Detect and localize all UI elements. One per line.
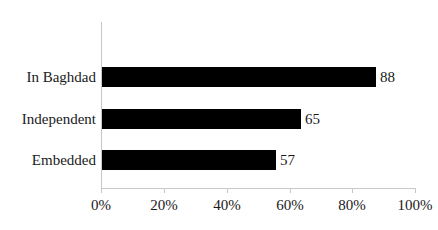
- y-axis-category-text: Independent: [0, 110, 96, 128]
- x-axis-tick-label: 100%: [385, 196, 438, 214]
- x-axis-tick-label: 80%: [322, 196, 382, 214]
- x-axis-tick-label: 60%: [260, 196, 320, 214]
- bar: [102, 150, 276, 170]
- bar: [102, 67, 376, 87]
- x-axis-tick: [290, 188, 291, 193]
- bar-value-label: 57: [280, 151, 295, 169]
- y-axis-category-label: In Baghdad: [0, 68, 96, 86]
- x-axis-tick-label: 0%: [71, 196, 131, 214]
- x-axis-tick: [415, 188, 416, 193]
- y-axis-category-text: Embedded: [0, 151, 96, 169]
- x-axis-line: [101, 188, 416, 189]
- plot-area: 0% 20% 40% 60% 80% 100% In Baghdad Indep…: [0, 0, 438, 230]
- bar-value-label: 88: [380, 68, 395, 86]
- x-axis-tick: [164, 188, 165, 193]
- x-axis-tick: [227, 188, 228, 193]
- bar-value-label: 65: [305, 110, 320, 128]
- bar: [102, 109, 301, 129]
- y-axis-category-text: In Baghdad: [0, 68, 96, 86]
- y-axis-category-label: Independent: [0, 110, 96, 128]
- bar-chart: 0% 20% 40% 60% 80% 100% In Baghdad Indep…: [0, 0, 438, 230]
- x-axis-tick: [101, 188, 102, 193]
- x-axis-tick-label: 40%: [197, 196, 257, 214]
- x-axis-tick: [352, 188, 353, 193]
- y-axis-category-label: Embedded: [0, 151, 96, 169]
- x-axis-tick-label: 20%: [134, 196, 194, 214]
